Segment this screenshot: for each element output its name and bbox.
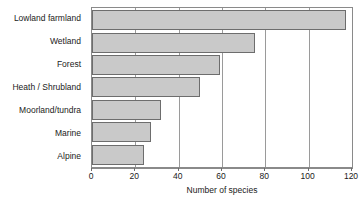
category-label: Marine (0, 122, 86, 145)
x-tick-label: 0 (89, 172, 94, 181)
x-tick-label: 20 (130, 172, 139, 181)
x-tick-label: 40 (173, 172, 182, 181)
bar-slot (92, 76, 352, 98)
category-label: Alpine (0, 145, 86, 168)
plot-area (91, 7, 353, 168)
bar-slot (92, 121, 352, 143)
bar (92, 100, 161, 120)
x-axis-title: Number of species (91, 186, 353, 195)
bars-layer (92, 8, 352, 167)
bar (92, 33, 255, 53)
bar (92, 77, 200, 97)
bar-slot (92, 9, 352, 31)
category-label: Heath / Shrubland (0, 76, 86, 99)
category-axis: Lowland farmland Wetland Forest Heath / … (0, 7, 86, 168)
category-label: Moorland/tundra (0, 99, 86, 122)
bar-slot (92, 144, 352, 166)
bar-slot (92, 31, 352, 53)
category-label: Forest (0, 53, 86, 76)
bar (92, 10, 346, 30)
category-label: Lowland farmland (0, 7, 86, 30)
x-axis-ticks: 020406080100120 (91, 168, 353, 182)
bar-slot (92, 54, 352, 76)
category-label: Wetland (0, 30, 86, 53)
x-tick-label: 80 (260, 172, 269, 181)
bar-slot (92, 99, 352, 121)
bar-chart: Lowland farmland Wetland Forest Heath / … (0, 0, 363, 203)
x-tick-label: 100 (301, 172, 315, 181)
x-tick-label: 120 (344, 172, 358, 181)
bar (92, 145, 144, 165)
x-tick-label: 60 (216, 172, 225, 181)
bar (92, 122, 151, 142)
bar (92, 55, 220, 75)
